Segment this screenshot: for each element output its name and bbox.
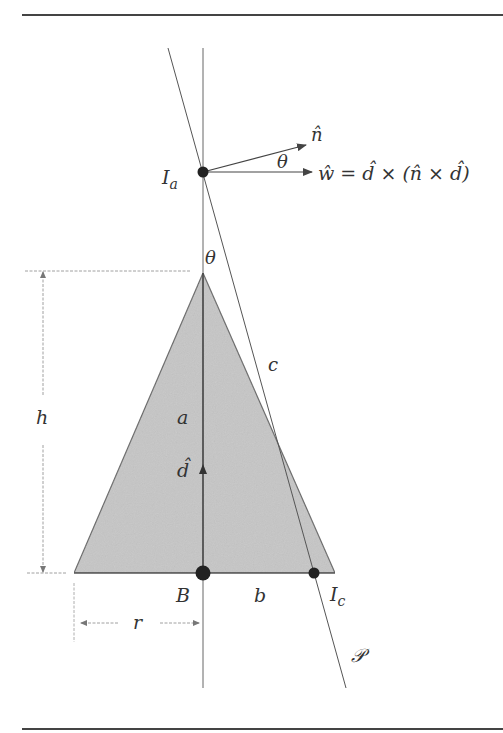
label-n-hat: n̂	[311, 124, 323, 145]
point-B	[196, 566, 211, 581]
label-P: 𝒫	[351, 644, 370, 666]
label-a: a	[177, 406, 188, 428]
label-r: r	[133, 611, 144, 633]
label-theta-apex: θ	[205, 247, 216, 268]
label-theta-vectors: θ	[277, 151, 288, 172]
label-B: B	[175, 584, 190, 606]
n-hat-vector	[203, 145, 306, 172]
cone-diagram: Ia n̂ θ ŵ = d̂ × (n̂ × d̂) θ c h a d̂ B …	[0, 0, 503, 733]
label-h: h	[36, 406, 48, 428]
label-b: b	[254, 584, 266, 606]
label-I_c: Ic	[329, 583, 346, 609]
label-c: c	[268, 354, 278, 375]
cone-triangle	[74, 273, 335, 573]
point-I_c	[309, 568, 320, 579]
label-I_a: Ia	[161, 166, 178, 192]
label-w-hat-equation: ŵ = d̂ × (n̂ × d̂)	[318, 160, 470, 184]
point-I_a	[198, 167, 209, 178]
